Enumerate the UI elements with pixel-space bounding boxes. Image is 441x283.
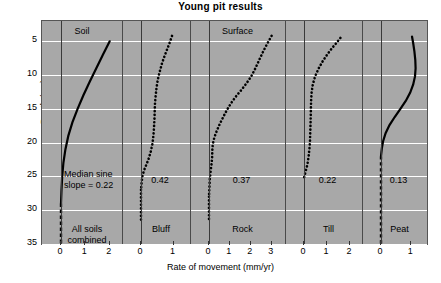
- group-label-soil: Soil: [74, 26, 89, 36]
- chart-title: Young pit results: [0, 1, 441, 12]
- panel-divider: [285, 21, 286, 244]
- chart-figure: Young pit results 5101520253035 Depth (c…: [0, 0, 441, 283]
- median-sine-slope-line: slope = 0.22: [64, 180, 113, 191]
- median-sine-slope-line: 0.22: [319, 175, 337, 186]
- x-tick-label: 0: [373, 246, 387, 256]
- panel-label-line: Bluff: [152, 224, 170, 235]
- panel-divider: [122, 21, 123, 244]
- panel-label-line: Rock: [232, 224, 253, 235]
- panel-zero-axis: [141, 21, 142, 244]
- x-tick-mark: [326, 241, 327, 245]
- y-tick-label: 25: [3, 169, 37, 179]
- x-tick-mark: [349, 241, 350, 245]
- panel-label-bluff: Bluff: [152, 224, 170, 235]
- y-tick-label: 30: [3, 203, 37, 213]
- curve-till: [304, 38, 340, 178]
- panel-zero-axis: [381, 21, 382, 244]
- curve-rock: [209, 36, 272, 197]
- panel-zero-axis: [209, 21, 210, 244]
- median-sine-slope-till: 0.22: [319, 175, 337, 186]
- median-sine-slope-peat: 0.13: [390, 175, 408, 186]
- panel-label-rock: Rock: [232, 224, 253, 235]
- x-tick-label: 1: [77, 246, 91, 256]
- panel-label-line: Till: [323, 224, 334, 235]
- panel-label-line: combined: [67, 235, 106, 246]
- y-tick-label: 5: [3, 34, 37, 44]
- x-tick-label: 1: [319, 246, 333, 256]
- x-tick-mark: [250, 241, 251, 245]
- x-tick-mark: [271, 241, 272, 245]
- x-tick-mark: [84, 241, 85, 245]
- x-tick-mark: [229, 241, 230, 245]
- x-tick-label: 1: [166, 246, 180, 256]
- x-tick-mark: [109, 241, 110, 245]
- curve-bluff: [141, 36, 172, 190]
- x-tick-mark: [140, 241, 141, 245]
- x-tick-label: 2: [243, 246, 257, 256]
- panel-label-till: Till: [323, 224, 334, 235]
- x-tick-label: 0: [201, 246, 215, 256]
- x-tick-label: 2: [342, 246, 356, 256]
- curve-peat: [381, 37, 416, 157]
- median-sine-slope-line: 0.13: [390, 175, 408, 186]
- median-sine-slope-bluff: 0.42: [151, 175, 169, 186]
- panel-label-peat: Peat: [390, 224, 409, 235]
- x-tick-label: 0: [53, 246, 67, 256]
- x-tick-mark: [60, 241, 61, 245]
- median-sine-slope-line: Median sine: [64, 169, 113, 180]
- plot-area: SoilSurfaceMedian sineslope = 0.220.420.…: [41, 20, 428, 245]
- median-sine-slope-line: 0.42: [151, 175, 169, 186]
- panel-label-all-soils-combined: All soilscombined: [67, 224, 106, 246]
- panel-zero-axis: [304, 21, 305, 244]
- x-tick-mark: [173, 241, 174, 245]
- panel-label-line: Peat: [390, 224, 409, 235]
- panel-divider: [362, 21, 363, 244]
- x-tick-mark: [380, 241, 381, 245]
- y-tick-label: 20: [3, 136, 37, 146]
- x-tick-label: 0: [296, 246, 310, 256]
- x-tick-label: 0: [133, 246, 147, 256]
- y-axis-ticks: 5101520253035: [0, 20, 37, 245]
- panel-label-line: All soils: [67, 224, 106, 235]
- median-sine-slope-line: 0.37: [233, 175, 251, 186]
- group-label-surface: Surface: [222, 26, 253, 36]
- y-tick-label: 15: [3, 102, 37, 112]
- x-tick-label: 1: [403, 246, 417, 256]
- x-tick-mark: [208, 241, 209, 245]
- panel-zero-axis: [61, 21, 62, 244]
- median-sine-slope-all-soils-combined: Median sineslope = 0.22: [64, 169, 113, 191]
- x-tick-label: 1: [222, 246, 236, 256]
- y-tick-label: 35: [3, 237, 37, 247]
- panel-divider: [190, 21, 191, 244]
- x-axis-ticks: 01201012301201: [41, 246, 428, 260]
- x-axis-label: Rate of movement (mm/yr): [0, 262, 441, 272]
- x-tick-mark: [410, 241, 411, 245]
- x-tick-label: 3: [264, 246, 278, 256]
- x-tick-mark: [303, 241, 304, 245]
- x-tick-label: 2: [102, 246, 116, 256]
- data-curves: [42, 21, 427, 244]
- median-sine-slope-rock: 0.37: [233, 175, 251, 186]
- y-tick-label: 10: [3, 68, 37, 78]
